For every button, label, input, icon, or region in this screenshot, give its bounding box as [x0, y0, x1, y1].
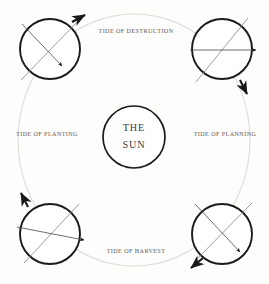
label-tide-of-planting: TIDE OF PLANTING	[16, 131, 78, 137]
label-tide-of-destruction: TIDE OF DESTRUCTION	[98, 28, 173, 34]
planet-bottom-right	[191, 203, 252, 268]
planet-top-left	[20, 15, 85, 80]
sun-label-line1: THE	[123, 122, 146, 133]
planet-bottom-left	[17, 193, 84, 264]
label-tide-of-planning: TIDE OF PLANNING	[194, 131, 257, 137]
planet-disc	[192, 19, 252, 79]
sun-disc	[103, 106, 165, 168]
sun-label-line2: SUN	[122, 139, 145, 150]
diagram-canvas: THE SUN TIDE OF DESTRUCTION TIDE OF PLAN…	[0, 0, 269, 284]
planet-top-right	[190, 18, 256, 94]
sun-group: THE SUN	[103, 106, 165, 168]
tide-cycle-diagram: THE SUN TIDE OF DESTRUCTION TIDE OF PLAN…	[0, 0, 269, 284]
orbit-direction-arrow	[21, 193, 28, 207]
label-tide-of-harvest: TIDE OF HARVEST	[107, 248, 166, 254]
